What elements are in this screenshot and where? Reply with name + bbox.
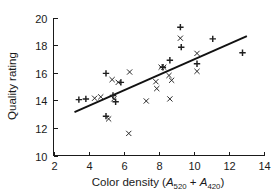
x-tick-label: 8: [156, 160, 162, 172]
x-tick-label: 2: [51, 160, 57, 172]
scatter-plot-figure: 2468101214 101214161820 Quality rating C…: [0, 0, 277, 194]
x-title-plus: +: [187, 176, 200, 188]
y-tick-label: 12: [35, 123, 47, 135]
x-tick-label: 4: [86, 160, 92, 172]
x-tick-label: 14: [258, 160, 270, 172]
y-axis-title-text: Quality rating: [6, 52, 18, 120]
x-title-prefix: Color density (: [92, 176, 166, 188]
y-tick-label: 20: [35, 13, 47, 25]
y-tick-label: 18: [35, 40, 47, 52]
x-tick-label: 12: [223, 160, 235, 172]
x-title-a420-symbol: A: [199, 176, 208, 188]
x-title-a520-subscript: 520: [174, 182, 188, 191]
x-title-suffix: ): [220, 176, 224, 188]
x-title-a520-symbol: A: [165, 176, 174, 188]
y-tick-label: 10: [35, 151, 47, 163]
plot-canvas: 2468101214 101214161820 Quality rating C…: [0, 0, 277, 194]
y-tick-label: 16: [35, 68, 47, 80]
y-tick-label: 14: [35, 95, 47, 107]
x-tick-label: 10: [188, 160, 200, 172]
x-tick-label: 6: [121, 160, 127, 172]
x-title-a420-subscript: 420: [207, 182, 221, 191]
y-axis-title: Quality rating: [6, 52, 18, 120]
